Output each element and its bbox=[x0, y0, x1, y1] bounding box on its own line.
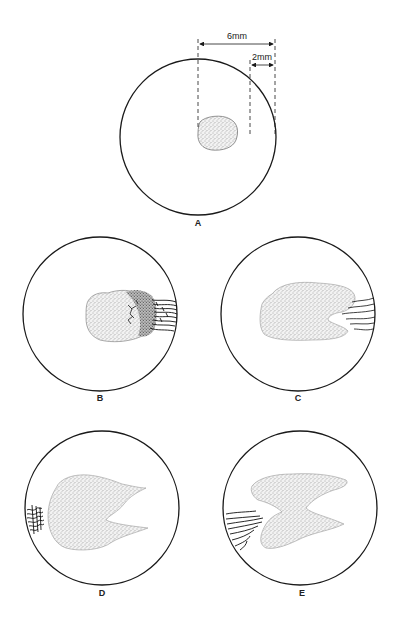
lesion-d bbox=[48, 475, 148, 550]
figure-canvas bbox=[0, 0, 402, 625]
panel-d bbox=[25, 431, 179, 585]
panel-label-a: A bbox=[195, 218, 202, 228]
dimension-label-6mm: 6mm bbox=[227, 31, 247, 41]
lesion-c bbox=[260, 282, 355, 340]
panel-c bbox=[221, 237, 375, 391]
lesion-a bbox=[198, 116, 238, 150]
panel-label-c: C bbox=[295, 393, 302, 403]
panel-label-d: D bbox=[99, 588, 106, 598]
panel-label-e: E bbox=[299, 588, 305, 598]
panel-a bbox=[120, 39, 276, 215]
panel-e bbox=[223, 431, 377, 585]
panel-b bbox=[23, 237, 177, 391]
panel-label-b: B bbox=[97, 393, 104, 403]
lesion-e bbox=[251, 474, 347, 549]
dimension-label-2mm: 2mm bbox=[252, 52, 272, 62]
radiating-lines-d bbox=[27, 505, 44, 534]
